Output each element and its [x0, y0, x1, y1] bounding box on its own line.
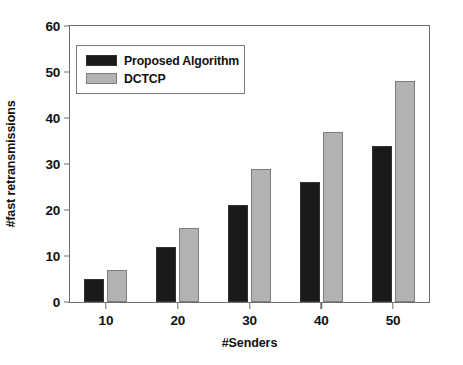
- bar: [300, 182, 320, 302]
- bar: [228, 205, 248, 302]
- legend: Proposed AlgorithmDCTCP: [76, 45, 245, 94]
- x-axis-tick-mark: [177, 302, 178, 309]
- x-axis-title: #Senders: [69, 336, 430, 350]
- x-axis-tick-mark: [249, 302, 250, 309]
- legend-item: DCTCP: [86, 71, 237, 86]
- y-axis-tick-mark: [64, 209, 70, 210]
- x-axis-tick-label: 40: [314, 313, 329, 328]
- y-axis-tick-mark: [64, 25, 70, 26]
- legend-item: Proposed Algorithm: [86, 53, 237, 68]
- y-axis-tick-mark: [64, 255, 70, 256]
- y-axis-tick-mark: [64, 71, 70, 72]
- y-axis-tick: 20: [45, 203, 70, 218]
- bar: [372, 146, 392, 302]
- y-axis-tick-label: 20: [45, 203, 64, 218]
- y-axis-tick-mark: [64, 301, 70, 302]
- x-axis-tick-label: 10: [99, 313, 114, 328]
- legend-item-label: DCTCP: [124, 72, 166, 86]
- y-axis-tick-label: 50: [45, 65, 64, 80]
- y-axis-tick-label: 0: [53, 295, 64, 310]
- bar: [179, 228, 199, 302]
- y-axis-tick: 40: [45, 111, 70, 126]
- y-axis-tick-label: 60: [45, 19, 64, 34]
- y-axis-tick: 10: [45, 249, 70, 264]
- y-axis-tick: 60: [45, 19, 70, 34]
- bar: [323, 132, 343, 302]
- bar: [107, 270, 127, 302]
- y-axis-tick: 50: [45, 65, 70, 80]
- y-axis-title: #fast retransmissions: [4, 100, 18, 227]
- bar: [395, 81, 415, 302]
- y-axis-tick-label: 30: [45, 157, 64, 172]
- bar: [251, 169, 271, 302]
- legend-swatch: [86, 73, 117, 84]
- y-axis-tick: 30: [45, 157, 70, 172]
- x-axis-tick-label: 20: [170, 313, 185, 328]
- bar: [84, 279, 104, 302]
- legend-item-label: Proposed Algorithm: [124, 54, 239, 68]
- x-axis-tick-mark: [105, 302, 106, 309]
- x-axis-tick-mark: [392, 302, 393, 309]
- legend-swatch: [86, 55, 117, 66]
- x-axis-tick-label: 30: [242, 313, 257, 328]
- y-axis-tick-label: 40: [45, 111, 64, 126]
- x-axis-tick-label: 50: [386, 313, 401, 328]
- y-axis-tick-mark: [64, 163, 70, 164]
- bar-chart: #fast retransmissions #Senders 010203040…: [0, 0, 463, 365]
- y-axis-tick-label: 10: [45, 249, 64, 264]
- y-axis-tick: 0: [53, 295, 70, 310]
- x-axis-tick-mark: [321, 302, 322, 309]
- bar: [156, 247, 176, 302]
- y-axis-tick-mark: [64, 117, 70, 118]
